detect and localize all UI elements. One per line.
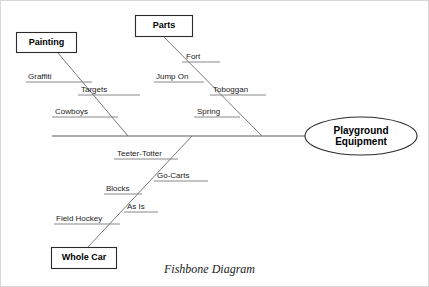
cause-label-as-is: As Is [127,202,145,211]
head-label-playground-equipment: Playground Equipment [305,125,417,147]
cause-label-blocks: Blocks [106,184,130,193]
cause-label-spring: Spring [197,107,220,116]
cause-label-targets: Targets [81,85,107,94]
diagram-caption: Fishbone Diagram [164,262,255,277]
head-label-line2: Equipment [305,136,417,147]
cause-label-go-carts: Go-Carts [157,171,189,180]
fishbone-diagram: Painting Parts Whole Car Playground Equi… [0,0,429,287]
cause-label-toboggan: Toboggan [213,85,248,94]
cause-label-field-hockey: Field Hockey [56,214,102,223]
cause-label-teeter-totter: Teeter-Totter [117,149,162,158]
head-label-line1: Playground [305,125,417,136]
cause-label-graffiti: Graffiti [28,72,51,81]
cause-label-fort: Fort [186,52,200,61]
cause-label-cowboys: Cowboys [55,107,88,116]
category-label-painting: Painting [16,38,77,47]
cause-label-jump-on: Jump On [156,72,188,81]
category-label-parts: Parts [135,21,193,30]
rib-painting [58,53,128,136]
category-label-whole-car: Whole Car [51,253,117,262]
